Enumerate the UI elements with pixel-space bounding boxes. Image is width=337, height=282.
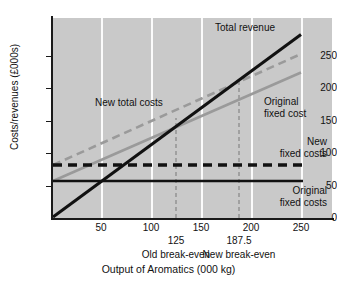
x-tick-label-100: 100	[131, 223, 171, 233]
y-axis-line	[51, 16, 53, 220]
breakeven-new-value: 187.5	[214, 236, 264, 246]
y-axis-title: Costs/revenues (£000s)	[10, 27, 20, 167]
series-label-total-revenue: Total revenue	[215, 22, 275, 34]
breakeven-old-value: 125	[151, 236, 201, 246]
break-even-chart: Total revenue New total costs Original f…	[0, 0, 337, 282]
x-tick-label-200: 200	[231, 223, 271, 233]
x-tick-label-150: 150	[181, 223, 221, 233]
breakeven-new-caption: New break-even	[184, 250, 294, 260]
series-label-new-total-costs: New total costs	[95, 97, 163, 109]
y-tick-label-150: 150	[293, 116, 337, 126]
y-tick-100	[46, 153, 52, 154]
y-tick-200	[46, 88, 52, 89]
plot-area: Total revenue New total costs Original f…	[53, 18, 332, 218]
x-tick-label-250: 250	[281, 223, 321, 233]
y-tick-50	[46, 186, 52, 187]
y-tick-250	[46, 56, 52, 57]
y-tick-label-200: 200	[293, 83, 337, 93]
y-tick-label-50: 50	[293, 181, 337, 191]
y-tick-label-250: 250	[293, 51, 337, 61]
x-axis-line	[51, 218, 334, 220]
y-tick-label-100: 100	[293, 148, 337, 158]
x-tick-label-50: 50	[81, 223, 121, 233]
x-axis-title: Output of Aromatics (000 kg)	[0, 264, 337, 275]
y-tick-150	[46, 121, 52, 122]
